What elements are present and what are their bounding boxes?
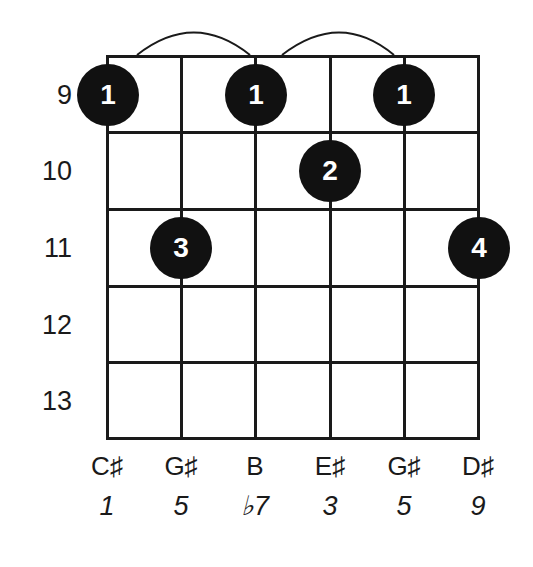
finger-dot: 2 <box>299 140 361 202</box>
string-line-4 <box>329 55 332 440</box>
tie-arc-2 <box>282 33 394 56</box>
fret-line <box>106 285 480 288</box>
chord-diagram: 9 10 11 12 13 1 3 1 2 1 4 C♯ G♯ B E♯ G♯ … <box>0 0 533 567</box>
finger-dot: 1 <box>225 64 287 126</box>
string-degree: 3 <box>295 491 365 521</box>
string-note: E♯ <box>295 451 365 481</box>
fret-line-bottom <box>106 437 480 440</box>
fret-line <box>106 208 480 211</box>
fret-line-top <box>106 55 480 58</box>
string-degree: 1 <box>72 491 142 521</box>
string-degree: 5 <box>369 491 439 521</box>
string-note: G♯ <box>146 451 216 481</box>
fret-number: 9 <box>12 80 72 110</box>
finger-dot: 1 <box>373 64 435 126</box>
fret-number: 11 <box>12 233 72 263</box>
string-degree: ♭7 <box>220 491 290 521</box>
finger-dot: 3 <box>150 217 212 279</box>
fret-number: 13 <box>12 386 72 416</box>
string-note: D♯ <box>443 451 513 481</box>
finger-dot: 4 <box>448 217 510 279</box>
string-degree: 5 <box>146 491 216 521</box>
tie-arc-1 <box>137 33 250 56</box>
string-degree: 9 <box>443 491 513 521</box>
fret-number: 12 <box>12 310 72 340</box>
fret-line <box>106 361 480 364</box>
finger-dot: 1 <box>77 64 139 126</box>
string-note: B <box>220 451 290 481</box>
string-note: G♯ <box>369 451 439 481</box>
fret-line <box>106 131 480 134</box>
fret-number: 10 <box>12 156 72 186</box>
string-note: C♯ <box>72 451 142 481</box>
